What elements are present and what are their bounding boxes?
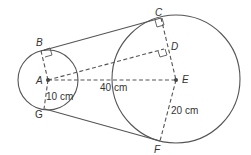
- label-e: E: [182, 74, 189, 85]
- center-e-dot: [174, 78, 178, 82]
- line-ad: [48, 49, 164, 80]
- label-center-distance: 40 cm: [100, 82, 127, 93]
- label-g: G: [35, 109, 43, 120]
- label-small-radius: 10 cm: [46, 91, 73, 102]
- label-large-radius: 20 cm: [171, 105, 198, 116]
- label-d: D: [171, 41, 178, 52]
- center-a-dot: [46, 78, 50, 82]
- label-a: A: [35, 75, 43, 86]
- tangent-bc: [41, 18, 161, 51]
- tangent-circles-diagram: A B C D E F G 10 cm 40 cm 20 cm: [0, 0, 251, 155]
- label-c: C: [155, 7, 163, 18]
- right-angle-d: [158, 49, 167, 57]
- tangent-gf: [45, 109, 160, 141]
- label-f: F: [154, 144, 161, 155]
- label-b: B: [36, 37, 43, 48]
